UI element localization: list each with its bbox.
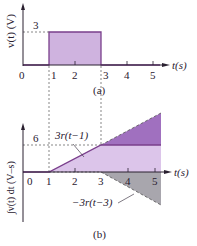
caption-a: (a) [93, 84, 106, 97]
annotation-ramp-down: −3r(t−3) [72, 196, 113, 209]
figure-a: 3 0 1 2 3 4 5 t(s) v(t) (V) (a) [4, 3, 187, 97]
x-axis-arrow-b [164, 170, 172, 174]
x-tick-1-b: 1 [46, 175, 52, 187]
x-axis-arrow-a [162, 63, 170, 67]
y-axis-arrow-a [21, 3, 25, 10]
x-tick-0-b: 0 [27, 175, 33, 187]
pulse-fill [49, 32, 101, 65]
x-tick-4-b: 4 [125, 175, 131, 187]
x-tick-5-a: 5 [150, 69, 156, 81]
y-label-b: ∫v(t) dt (V–s) [5, 161, 17, 215]
leader-ramp-down [118, 194, 134, 203]
caption-b: (b) [93, 228, 106, 241]
integral-area [49, 145, 161, 172]
x-label-b: t(s) [174, 166, 189, 179]
x-tick-0-a: 0 [19, 69, 25, 81]
x-tick-2-b: 2 [72, 175, 78, 187]
diagram: 3 0 1 2 3 4 5 t(s) v(t) (V) (a) [0, 0, 197, 246]
x-tick-3-a: 3 [103, 69, 109, 81]
x-tick-3-b: 3 [98, 175, 104, 187]
y-axis-arrow-b [21, 123, 25, 130]
leader-ramp-up [73, 144, 84, 157]
y-tick-3: 3 [33, 19, 39, 31]
y-label-a: v(t) (V) [4, 14, 17, 48]
x-tick-4-a: 4 [124, 69, 130, 81]
x-label-a: t(s) [172, 59, 187, 72]
y-tick-6: 6 [33, 132, 39, 144]
figure-b: 6 3r(t−1) −3r(t−3) 0 1 2 3 4 5 t(s) ∫v(t… [5, 113, 189, 241]
annotation-ramp-up: 3r(t−1) [54, 129, 88, 142]
x-tick-1-a: 1 [51, 69, 57, 81]
x-tick-2-a: 2 [72, 69, 78, 81]
x-tick-5-b: 5 [152, 175, 158, 187]
